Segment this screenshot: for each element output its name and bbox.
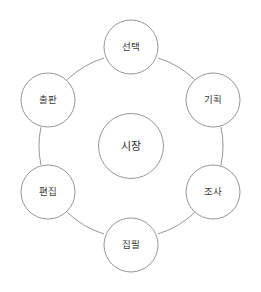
node-upper-left-label: 출판	[39, 95, 57, 105]
connector-arc	[158, 213, 194, 234]
node-lower-left-label: 편집	[39, 187, 57, 197]
center-node-label: 시장	[121, 141, 142, 152]
node-top-label: 선택	[122, 42, 140, 52]
connector-arc	[39, 127, 41, 165]
connector-arc	[221, 127, 223, 166]
connector-arc	[67, 212, 104, 234]
node-bottom-label: 집필	[122, 240, 140, 250]
connector-arc	[67, 58, 104, 80]
cycle-diagram: 선택기획조사집필편집출판 시장	[0, 0, 261, 292]
connector-arc	[158, 58, 194, 79]
node-upper-right-label: 기획	[204, 95, 222, 105]
node-lower-right-label: 조사	[204, 187, 222, 197]
